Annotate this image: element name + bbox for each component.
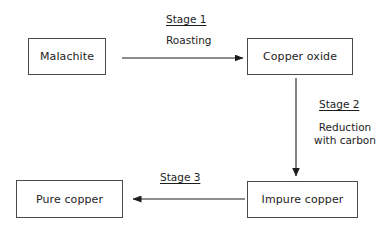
stage-3-label: Stage 3 — [160, 172, 200, 183]
node-pure-copper: Pure copper — [16, 180, 123, 218]
node-malachite: Malachite — [28, 38, 106, 75]
process-2-line-2: with carbon — [302, 134, 388, 147]
node-copper-oxide: Copper oxide — [247, 38, 353, 75]
process-2-line-1: Reduction — [302, 121, 388, 134]
node-impure-copper-label: Impure copper — [262, 194, 344, 205]
process-flow-diagram: Malachite Copper oxide Impure copper Pur… — [0, 0, 390, 233]
node-copper-oxide-label: Copper oxide — [263, 51, 337, 62]
process-1-label: Roasting — [166, 34, 212, 47]
stage-2-label: Stage 2 — [319, 99, 359, 110]
stage-1-label: Stage 1 — [166, 14, 206, 25]
process-2-label: Reduction with carbon — [302, 121, 388, 147]
node-malachite-label: Malachite — [40, 51, 94, 62]
node-pure-copper-label: Pure copper — [36, 194, 103, 205]
node-impure-copper: Impure copper — [247, 181, 358, 218]
